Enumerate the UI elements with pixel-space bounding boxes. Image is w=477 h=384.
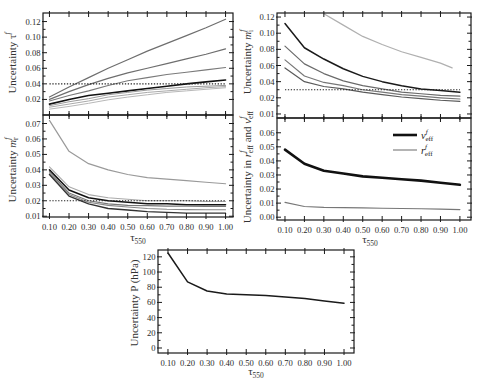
panel-reff-veff-uncertainty: 0.000.010.020.030.040.050.060.100.200.30… — [238, 110, 472, 248]
y-tick-label: 0.01 — [259, 109, 274, 119]
y-tick-label: 0.12 — [259, 12, 274, 22]
panel-mr-uncertainty: 0.010.020.030.040.050.060.070.100.200.30… — [3, 113, 234, 246]
y-axis-label: Uncertainty τf — [3, 31, 17, 93]
y-tick-label: 0.00 — [259, 212, 274, 222]
data-line — [285, 202, 460, 209]
data-line — [285, 150, 460, 185]
tick-marks — [276, 11, 472, 120]
y-tick-label: 0.01 — [259, 198, 274, 208]
axes-frame — [277, 118, 471, 220]
data-line — [324, 14, 452, 68]
x-tick-label: 0.10 — [160, 358, 175, 368]
y-tick-label: 0.06 — [259, 128, 275, 138]
x-tick-label: 0.90 — [433, 225, 448, 235]
y-tick-label: 0.03 — [259, 170, 274, 180]
plot-area — [285, 150, 460, 210]
x-tick-label: 0.80 — [297, 358, 312, 368]
y-tick-label: 0.02 — [25, 196, 40, 206]
legend-entry: vfeff — [393, 128, 434, 143]
data-line — [285, 24, 460, 93]
x-tick-label: 0.10 — [42, 222, 57, 232]
panel-pressure-uncertainty: 0204060801001200.100.200.300.400.500.600… — [128, 248, 355, 380]
y-tick-label: 0.03 — [25, 180, 40, 190]
x-tick-label: 0.30 — [200, 358, 215, 368]
y-tick-label: 0.04 — [259, 77, 275, 87]
x-tick-label: 0.70 — [394, 225, 409, 235]
data-line — [285, 46, 460, 96]
x-tick-label: 0.60 — [140, 222, 155, 232]
x-tick-label: 1.00 — [452, 225, 467, 235]
y-tick-label: 0.06 — [25, 134, 41, 144]
y-tick-label: 0.12 — [25, 17, 40, 27]
y-tick-label: 20 — [147, 328, 156, 338]
legend-entry: rfeff — [393, 143, 433, 158]
panel-tau-uncertainty: 0.020.040.060.080.100.12Uncertainty τf — [3, 11, 234, 117]
y-tick-label: 0.01 — [25, 211, 40, 221]
y-tick-label: 0.10 — [25, 32, 40, 42]
y-tick-label: 0.08 — [25, 48, 40, 58]
x-tick-label: 0.40 — [219, 358, 234, 368]
legend-label: rfeff — [421, 143, 433, 158]
data-line — [49, 19, 225, 97]
x-tick-label: 1.00 — [218, 222, 233, 232]
x-tick-label: 0.20 — [297, 225, 312, 235]
y-tick-label: 0.04 — [259, 156, 275, 166]
x-tick-label: 0.40 — [336, 225, 351, 235]
y-tick-label: 0.02 — [259, 184, 274, 194]
x-axis-label: τ550 — [362, 233, 378, 248]
y-tick-label: 0.05 — [25, 149, 40, 159]
figure: 0.020.040.060.080.100.12Uncertainty τf 0… — [0, 0, 477, 384]
x-tick-label: 0.40 — [101, 222, 116, 232]
data-line — [49, 49, 225, 100]
x-tick-label: 0.90 — [198, 222, 213, 232]
legend: vfeffrfeff — [393, 128, 434, 158]
x-tick-label: 0.80 — [414, 225, 429, 235]
y-tick-label: 40 — [147, 313, 156, 323]
y-tick-label: 0.04 — [25, 165, 41, 175]
panel-mi-uncertainty: 0.010.020.040.060.080.100.12Uncertainty … — [238, 11, 472, 120]
y-tick-label: 0.02 — [25, 94, 40, 104]
x-tick-label: 0.70 — [278, 358, 293, 368]
y-tick-label: 0.02 — [259, 93, 274, 103]
x-tick-label: 0.30 — [81, 222, 96, 232]
axes-frame — [277, 13, 471, 118]
x-tick-label: 0.10 — [277, 225, 292, 235]
plot-area — [285, 14, 460, 101]
y-axis-label: Uncertainty mfi — [238, 29, 255, 95]
x-tick-label: 0.50 — [120, 222, 135, 232]
y-axis-label: Uncertainty in rfeff and vfeff — [238, 110, 255, 223]
x-tick-label: 1.00 — [336, 358, 351, 368]
y-tick-label: 0.05 — [259, 142, 274, 152]
y-tick-label: 80 — [147, 282, 156, 292]
data-line — [285, 68, 460, 101]
y-tick-label: 0.06 — [259, 61, 275, 71]
y-tick-label: 0.08 — [259, 44, 274, 54]
x-tick-label: 0.60 — [258, 358, 273, 368]
x-axis-label: τ550 — [130, 231, 146, 246]
x-tick-label: 0.20 — [180, 358, 195, 368]
x-tick-label: 0.60 — [375, 225, 390, 235]
y-axis-label: Uncertainty mfr — [3, 137, 20, 203]
x-tick-label: 0.90 — [317, 358, 332, 368]
legend-label: vfeff — [421, 128, 434, 143]
y-tick-label: 0.07 — [25, 119, 41, 129]
y-tick-label: 0.10 — [259, 28, 274, 38]
x-tick-label: 0.30 — [316, 225, 331, 235]
plot-area — [49, 19, 225, 109]
x-tick-label: 0.70 — [159, 222, 174, 232]
data-line — [49, 120, 225, 183]
x-tick-label: 0.20 — [61, 222, 76, 232]
plot-area — [168, 253, 344, 303]
x-tick-label: 0.80 — [179, 222, 194, 232]
y-tick-label: 0.06 — [25, 63, 41, 73]
y-tick-label: 120 — [143, 252, 156, 262]
y-axis-label: Uncertainty P (hPa) — [128, 259, 141, 346]
y-tick-label: 0 — [151, 343, 155, 353]
figure-canvas: 0.020.040.060.080.100.12Uncertainty τf 0… — [0, 0, 477, 384]
data-line — [168, 253, 344, 303]
y-tick-label: 0.04 — [25, 79, 41, 89]
y-tick-label: 60 — [147, 297, 156, 307]
plot-area — [49, 120, 225, 213]
y-tick-label: 100 — [143, 267, 156, 277]
